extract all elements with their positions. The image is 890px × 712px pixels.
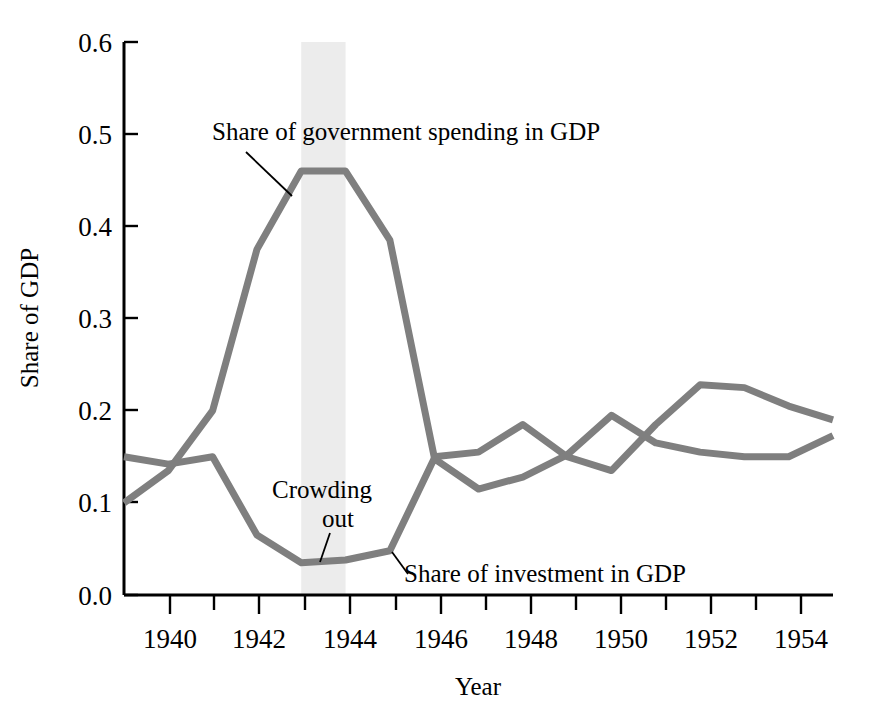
leader-line-government-label	[246, 152, 292, 196]
y-tick-0-3: 0.3	[78, 304, 112, 334]
y-tick-0-5: 0.5	[78, 120, 112, 150]
x-tick-1950: 1950	[594, 624, 648, 654]
x-tick-1952: 1952	[684, 624, 738, 654]
x-axis-ticks	[170, 595, 801, 614]
series-line-investment	[124, 415, 833, 562]
y-axis-title: Share of GDP	[16, 248, 43, 388]
x-axis-tick-labels: 1940 1942 1944 1946 1948 1950 1952 1954	[143, 624, 829, 654]
line-chart: 0.6 0.5 0.4 0.3 0.2 0.1 0.0	[0, 0, 890, 712]
y-axis-tick-labels: 0.6 0.5 0.4 0.3 0.2 0.1 0.0	[78, 28, 112, 611]
x-tick-1948: 1948	[504, 624, 558, 654]
y-axis-ticks	[124, 42, 138, 595]
x-tick-1942: 1942	[232, 624, 286, 654]
annotation-crowding-out-line2: out	[322, 505, 354, 532]
y-tick-0-6: 0.6	[78, 28, 112, 58]
y-tick-0-1: 0.1	[78, 488, 112, 518]
x-tick-1954: 1954	[774, 624, 829, 654]
x-tick-1940: 1940	[143, 624, 197, 654]
y-tick-0-2: 0.2	[78, 396, 112, 426]
chart-page: 0.6 0.5 0.4 0.3 0.2 0.1 0.0	[0, 0, 890, 712]
annotation-government-spending-label: Share of government spending in GDP	[212, 118, 600, 145]
x-axis-title: Year	[455, 673, 502, 700]
annotation-investment-label: Share of investment in GDP	[404, 560, 686, 587]
x-tick-1946: 1946	[414, 624, 468, 654]
y-tick-0-4: 0.4	[78, 212, 112, 242]
y-tick-0-0: 0.0	[78, 581, 112, 611]
annotation-crowding-out-line1: Crowding	[272, 476, 373, 503]
x-tick-1944: 1944	[323, 624, 378, 654]
